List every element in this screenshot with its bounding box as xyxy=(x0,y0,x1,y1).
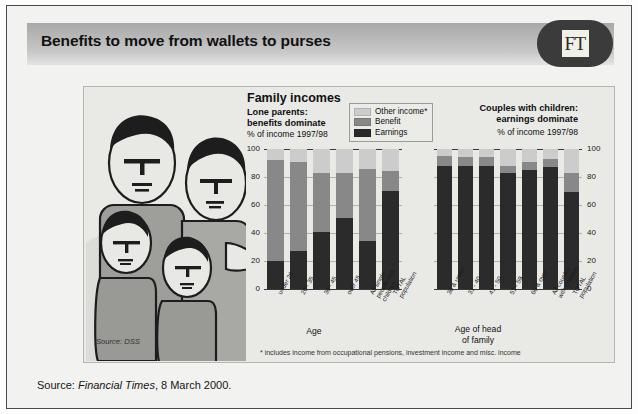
category-label-cell: All single people with children xyxy=(356,290,379,291)
family-illustration-icon xyxy=(86,93,246,361)
bar-segment-benefit xyxy=(267,160,284,261)
y-tick-label: 60 xyxy=(587,201,596,209)
bar-segment-other-income xyxy=(359,149,376,169)
bar-segment-other-income xyxy=(564,149,579,173)
legend-label-other-income: Other income* xyxy=(375,108,427,116)
bar-segment-other-income xyxy=(437,149,452,156)
bottom-source-prefix: Source: xyxy=(37,379,78,391)
y-tick-label: 40 xyxy=(242,229,260,237)
bar-segment-other-income xyxy=(522,149,537,162)
category-label-cell: 41 - 50 xyxy=(476,290,497,291)
bar-column xyxy=(287,149,310,289)
bottom-source-suffix: , 8 March 2000. xyxy=(155,379,231,391)
category-label-cell: TOTAL population xyxy=(561,290,582,291)
chart-panel: Family incomes Lone parents: benefits do… xyxy=(83,86,615,363)
bar-segment-benefit xyxy=(564,173,579,193)
bottom-source-publication: Financial Times xyxy=(78,379,155,391)
chart-legend: Other income* Benefit Earnings xyxy=(349,103,433,142)
y-tick-label: 80 xyxy=(587,173,596,181)
bar-group xyxy=(434,149,582,289)
bar-segment-other-income xyxy=(290,149,307,162)
bar-segment-other-income xyxy=(336,149,353,173)
bar-segment-benefit xyxy=(479,157,494,165)
source-note: Source: DSS xyxy=(96,337,140,346)
bar-segment-earnings xyxy=(522,170,537,289)
category-label-cell: 30 & under xyxy=(434,290,455,291)
left-chart-subtitle-line1: Lone parents: xyxy=(247,107,308,117)
stacked-bar xyxy=(479,149,494,289)
page-root: Benefits to move from wallets to purses … xyxy=(0,0,638,414)
ft-logo: FT xyxy=(537,20,613,67)
legend-label-benefit: Benefit xyxy=(375,118,401,126)
legend-label-earnings: Earnings xyxy=(375,129,407,137)
y-tick-label: 40 xyxy=(587,229,596,237)
category-label-cell: under 26 xyxy=(264,290,287,291)
bar-segment-earnings xyxy=(437,166,452,289)
stacked-bar xyxy=(437,149,452,289)
bar-column xyxy=(333,149,356,289)
y-tick-label: 100 xyxy=(242,145,260,153)
left-chart-units: % of income 1997/98 xyxy=(247,129,328,139)
stacked-bar xyxy=(267,149,284,289)
bar-segment-benefit xyxy=(500,166,515,173)
right-chart-axis-title-line2: of family xyxy=(430,336,526,346)
legend-item-other-income: Other income* xyxy=(354,107,427,117)
y-tick-label: 0 xyxy=(242,285,260,293)
right-chart-subtitle-line2: earnings dominate xyxy=(496,114,578,124)
category-label-cell: 36 - 45 xyxy=(310,290,333,291)
bar-segment-benefit xyxy=(522,162,537,170)
bar-segment-other-income xyxy=(479,149,494,157)
legend-item-benefit: Benefit xyxy=(354,118,427,128)
left-chart-subtitle-line2: benefits dominate xyxy=(247,118,326,128)
legend-item-earnings: Earnings xyxy=(354,128,427,138)
bar-column xyxy=(497,149,518,289)
stacked-bar xyxy=(290,149,307,289)
bar-column xyxy=(519,149,540,289)
y-tick-label: 20 xyxy=(587,257,596,265)
bottom-source-line: Source: Financial Times, 8 March 2000. xyxy=(37,379,231,391)
category-label-cell: 26 - 35 xyxy=(287,290,310,291)
bar-segment-benefit xyxy=(290,162,307,252)
right-chart-axis-title-line1: Age of head xyxy=(430,325,526,335)
right-chart-subtitle-line1: Couples with children: xyxy=(479,103,578,113)
bar-segment-earnings xyxy=(500,173,515,289)
bar-column xyxy=(476,149,497,289)
category-label-cell: 51 - 59 xyxy=(497,290,518,291)
right-chart-plot xyxy=(434,149,582,289)
bar-segment-benefit xyxy=(382,171,399,191)
y-tick-label: 60 xyxy=(242,201,260,209)
bar-segment-other-income xyxy=(458,149,473,157)
bar-column xyxy=(310,149,333,289)
legend-swatch-benefit xyxy=(354,118,371,126)
legend-swatch-other-income xyxy=(354,108,371,116)
category-label-cell: All couples with children xyxy=(540,290,561,291)
category-label-cell: over 45 xyxy=(333,290,356,291)
right-chart-category-labels: 30 & under31 - 4041 - 5051 - 5960 & over… xyxy=(434,290,582,291)
chart-title: Family incomes xyxy=(247,91,341,105)
bar-segment-benefit xyxy=(313,173,330,232)
bar-segment-earnings xyxy=(336,218,353,289)
stacked-bar xyxy=(313,149,330,289)
right-chart-units: % of income 1997/98 xyxy=(497,127,578,137)
bar-segment-other-income xyxy=(500,149,515,166)
category-label-cell: 60 & over xyxy=(519,290,540,291)
bar-column xyxy=(264,149,287,289)
bar-segment-benefit xyxy=(437,156,452,166)
bar-segment-benefit xyxy=(336,173,353,218)
bar-segment-benefit xyxy=(458,157,473,165)
bar-segment-other-income xyxy=(382,149,399,171)
bar-column xyxy=(356,149,379,289)
figure-frame: Benefits to move from wallets to purses … xyxy=(6,5,632,409)
stacked-bar xyxy=(359,149,376,289)
footnote: * includes income from occupational pens… xyxy=(260,349,521,356)
legend-swatch-earnings xyxy=(354,129,371,137)
bar-segment-other-income xyxy=(543,149,558,159)
y-tick-label: 80 xyxy=(242,173,260,181)
bar-segment-benefit xyxy=(359,169,376,242)
left-chart-category-labels: under 2626 - 3536 - 45over 45All single … xyxy=(264,290,402,291)
category-label-cell: TOTAL population xyxy=(379,290,402,291)
ft-logo-text: FT xyxy=(562,30,589,57)
bar-column xyxy=(434,149,455,289)
left-chart-axis-title: Age xyxy=(264,327,364,337)
y-tick-label: 100 xyxy=(587,145,600,153)
